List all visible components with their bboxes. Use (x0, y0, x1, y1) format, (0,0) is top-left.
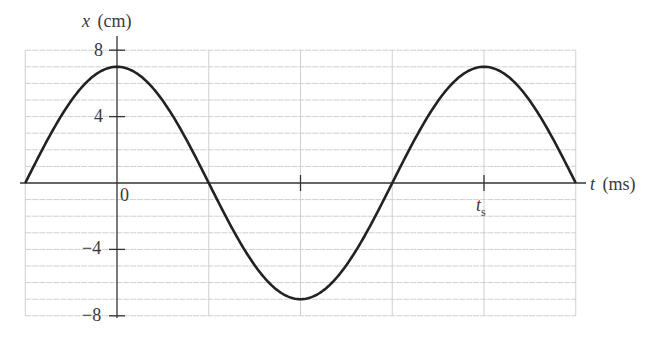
axes (20, 36, 586, 318)
y-tick-label-4: 4 (94, 106, 103, 126)
x-tick-label-0: 0 (120, 185, 129, 205)
sine-wave-chart: x (cm) t (ms) 8 4 −4 −8 0 ts (0, 0, 662, 344)
y-tick-label-neg4: −4 (82, 238, 101, 258)
y-tick-label-neg8: −8 (82, 305, 101, 325)
x-tick-label-ts: ts (476, 195, 486, 219)
x-axis-label: t (ms) (590, 174, 636, 195)
y-axis-label: x (cm) (81, 11, 131, 32)
y-tick-label-8: 8 (94, 40, 103, 60)
